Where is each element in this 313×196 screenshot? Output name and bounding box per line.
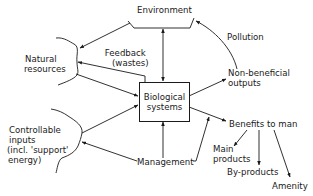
biological-systems-box: Biological systems bbox=[139, 82, 190, 122]
benefits-to-man-label: Benefits to man bbox=[229, 119, 297, 129]
environment-label: Environment bbox=[137, 5, 192, 15]
main-products-line2: products bbox=[213, 154, 251, 164]
biological-systems-line2: systems bbox=[144, 102, 185, 112]
by-products-label: By-products bbox=[227, 167, 278, 177]
amenity-label: Amenity bbox=[272, 181, 308, 191]
arrow-controllable-inputs-to-biological bbox=[82, 105, 138, 133]
controllable-inputs-line2: inputs bbox=[7, 135, 68, 145]
management-label: Management bbox=[137, 157, 194, 167]
environment-boundary bbox=[128, 18, 194, 28]
arrow-environment-to-natural-resources bbox=[80, 23, 130, 48]
feedback-label: Feedback (wastes) bbox=[102, 48, 149, 68]
controllable-inputs-label: Controllable inputs (incl. 'support' ene… bbox=[7, 125, 68, 165]
natural-resources-label: Natural resources bbox=[24, 54, 66, 74]
natural-resources-line2: resources bbox=[24, 64, 66, 74]
non-beneficial-line2: outputs bbox=[228, 78, 290, 88]
non-beneficial-outputs-label: Non-beneficial outputs bbox=[228, 68, 290, 88]
arrow-pollution bbox=[196, 21, 237, 69]
arrow-biological-to-non-beneficial bbox=[189, 79, 226, 96]
controllable-inputs-line3: (incl. 'support' bbox=[7, 145, 68, 155]
controllable-inputs-line1: Controllable bbox=[7, 125, 68, 135]
arrow-natural-resources-to-biological bbox=[76, 74, 138, 96]
feedback-line2: (wastes) bbox=[102, 58, 149, 68]
feedback-line1: Feedback bbox=[102, 48, 149, 58]
pollution-label: Pollution bbox=[227, 32, 264, 42]
natural-resources-line1: Natural bbox=[24, 54, 66, 64]
biological-systems-line1: Biological bbox=[144, 92, 185, 102]
non-beneficial-line1: Non-beneficial bbox=[228, 68, 290, 78]
controllable-inputs-line4: energy) bbox=[7, 155, 68, 165]
arrow-biological-to-benefits bbox=[189, 107, 226, 121]
main-products-label: Main products bbox=[213, 144, 251, 164]
arrow-management-to-controllable-inputs bbox=[82, 142, 137, 161]
main-products-line1: Main bbox=[213, 144, 251, 154]
arrow-management-to-benefits bbox=[193, 117, 209, 161]
